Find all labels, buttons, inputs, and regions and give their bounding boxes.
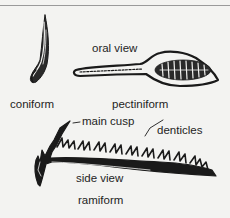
denticles-label: denticles bbox=[157, 124, 202, 137]
oral-view-label: oral view bbox=[92, 42, 137, 55]
coniform-element-illustration bbox=[30, 15, 48, 83]
side-view-label: side view bbox=[76, 172, 123, 185]
ramiform-label: ramiform bbox=[78, 194, 123, 207]
pectiniform-element-illustration bbox=[74, 52, 218, 86]
coniform-label: coniform bbox=[10, 98, 54, 111]
pectiniform-label: pectiniform bbox=[112, 98, 168, 111]
main-cusp-label: main cusp bbox=[82, 115, 134, 128]
main-cusp-leader-line bbox=[73, 122, 80, 123]
